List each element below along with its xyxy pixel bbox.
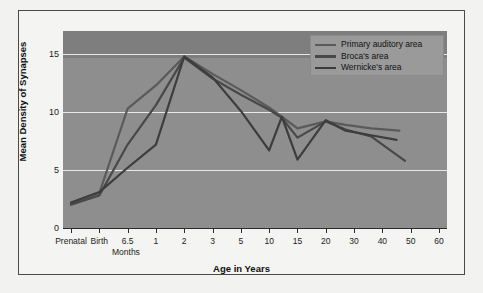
x-tick-label: 15	[293, 236, 302, 246]
x-tick-mark	[411, 229, 412, 233]
legend-label: Primary auditory area	[341, 40, 422, 49]
x-tick-mark	[439, 229, 440, 233]
x-tick-label: 5	[238, 236, 243, 246]
legend-item: Broca's area	[315, 51, 439, 63]
x-tick-mark	[297, 229, 298, 233]
x-tick-label: 2	[182, 236, 187, 246]
y-tick-label: 15	[37, 50, 59, 59]
x-tick-label: Birth	[91, 236, 108, 246]
x-tick-mark	[326, 229, 327, 233]
legend-label: Wernicke's area	[341, 63, 402, 72]
x-tick-label: 40	[378, 236, 387, 246]
y-axis-title: Mean Density of Synapses	[17, 32, 28, 172]
x-tick-marks	[63, 229, 447, 234]
x-tick-mark	[99, 229, 100, 233]
x-tick-label: 60	[434, 236, 443, 246]
x-tick-label: 6.5	[122, 236, 134, 246]
y-tick-label: 10	[37, 108, 59, 117]
legend-swatch	[315, 67, 336, 70]
x-tick-mark	[156, 229, 157, 233]
x-tick-label: 1	[154, 236, 159, 246]
x-tick-label: 10	[264, 236, 273, 246]
y-tick-label: 0	[37, 224, 59, 233]
x-tick-label: 20	[321, 236, 330, 246]
chart-legend: Primary auditory areaBroca's areaWernick…	[310, 35, 444, 76]
x-tick-mark	[354, 229, 355, 233]
figure-canvas: Primary auditory areaBroca's areaWernick…	[0, 0, 483, 293]
x-tick-mark	[128, 229, 129, 233]
legend-swatch	[315, 55, 336, 58]
x-tick-label: Prenatal	[55, 236, 87, 246]
x-tick-mark	[241, 229, 242, 233]
x-tick-label: 30	[349, 236, 358, 246]
y-tick-labels: 051015	[33, 0, 59, 293]
x-tick-mark	[71, 229, 72, 233]
x-tick-mark	[382, 229, 383, 233]
months-sublabel: Months	[112, 247, 140, 257]
y-tick-label: 5	[37, 166, 59, 175]
legend-label: Broca's area	[341, 52, 388, 61]
x-tick-mark	[213, 229, 214, 233]
legend-item: Primary auditory area	[315, 39, 439, 51]
x-tick-label: 3	[210, 236, 215, 246]
x-tick-mark	[269, 229, 270, 233]
x-tick-mark	[184, 229, 185, 233]
legend-swatch	[315, 44, 336, 47]
plot-area: Primary auditory areaBroca's areaWernick…	[63, 31, 447, 228]
x-tick-label: 50	[406, 236, 415, 246]
legend-item: Wernicke's area	[315, 62, 439, 74]
x-axis-title: Age in Years	[0, 263, 483, 274]
